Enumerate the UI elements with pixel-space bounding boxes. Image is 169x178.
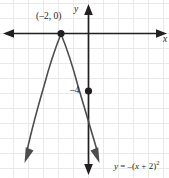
equation-remainder: + 2) [139,161,156,171]
graph-canvas [0,0,169,178]
vertex-label: (–2, 0) [36,12,61,22]
equation-exponent: 2 [156,159,159,166]
curve-arrow-right [91,147,100,163]
x-axis-label: x [163,35,167,45]
x-axis [3,29,167,38]
y-axis-arrow-up [84,4,93,15]
grid-lines [0,0,169,178]
equation-label: y = –(x + 2)2 [114,160,159,171]
equation-operator: = –( [118,161,135,171]
y-intercept-point [85,87,92,94]
x-axis-arrow-left [3,29,14,38]
y-intercept-label: –4 [70,86,80,96]
parabola-figure: (–2, 0) –4 y x y = –(x + 2)2 [0,0,169,178]
vertex-point [57,30,64,37]
y-axis-arrow-down [84,164,93,175]
y-axis-label: y [74,5,78,15]
